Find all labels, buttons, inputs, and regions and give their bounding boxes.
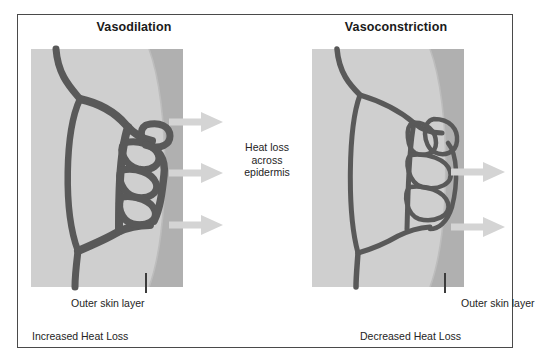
- caption-decreased-heat-loss: Decreased Heat Loss: [360, 330, 461, 342]
- heat-loss-annotation: Heat loss across epidermis: [234, 141, 300, 179]
- heat-loss-annotation-line-2: across: [234, 154, 300, 167]
- diagram-frame: Vasodilation: [17, 14, 513, 348]
- heat-loss-annotation-line-3: epidermis: [234, 166, 300, 179]
- panel-vasoconstriction: Vasoconstriction: [266, 15, 514, 347]
- skin-tissue-block-right: [312, 49, 485, 287]
- caption-increased-heat-loss: Increased Heat Loss: [32, 330, 128, 342]
- skin-layer-label-left: Outer skin layer: [71, 297, 145, 309]
- skin-layer-label-right: Outer skin layer: [461, 297, 535, 309]
- heat-loss-annotation-line-1: Heat loss: [234, 141, 300, 154]
- panel-vasodilation: Vasodilation: [18, 15, 266, 347]
